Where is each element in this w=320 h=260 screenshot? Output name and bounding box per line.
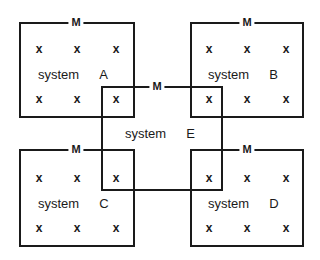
system-a-boundary-label: M xyxy=(68,17,83,27)
system-d-word: system xyxy=(208,196,249,211)
system-e-word: system xyxy=(125,126,166,141)
system-d-boundary-label: M xyxy=(239,144,254,154)
system-a-letter: A xyxy=(99,67,108,82)
particle-d5: x xyxy=(244,222,251,234)
particle-d2: x xyxy=(244,172,251,184)
particle-c2: x xyxy=(74,172,81,184)
particle-b3: x xyxy=(283,43,290,55)
particle-d6: x xyxy=(283,222,290,234)
system-a-label: systemA xyxy=(38,68,108,81)
system-b-letter: B xyxy=(269,67,278,82)
particle-a1: x xyxy=(36,43,43,55)
system-e-boundary-label: M xyxy=(149,81,164,91)
system-a-word: system xyxy=(38,67,79,82)
particle-c6: x xyxy=(113,222,120,234)
particle-a3: x xyxy=(113,43,120,55)
particle-d3: x xyxy=(283,172,290,184)
particle-c5: x xyxy=(74,222,81,234)
particle-b5: x xyxy=(244,93,251,105)
system-d-letter: D xyxy=(269,196,278,211)
particle-c1: x xyxy=(36,172,43,184)
particle-d4: x xyxy=(206,222,213,234)
particle-b2: x xyxy=(244,43,251,55)
system-b-boundary-label: M xyxy=(239,17,254,27)
system-c-label: systemC xyxy=(38,197,109,210)
system-c-letter: C xyxy=(99,196,108,211)
particle-a2: x xyxy=(74,43,81,55)
system-d-label: systemD xyxy=(208,197,279,210)
particle-c4: x xyxy=(36,222,43,234)
particle-a5: x xyxy=(74,93,81,105)
system-b-word: system xyxy=(208,67,249,82)
particle-b1: x xyxy=(206,43,213,55)
system-b-label: systemB xyxy=(208,68,278,81)
particle-a4: x xyxy=(36,93,43,105)
particle-b6: x xyxy=(283,93,290,105)
system-e-label: systemE xyxy=(125,127,195,140)
system-e-letter: E xyxy=(186,126,195,141)
system-c-word: system xyxy=(38,196,79,211)
system-c-boundary-label: M xyxy=(68,144,83,154)
